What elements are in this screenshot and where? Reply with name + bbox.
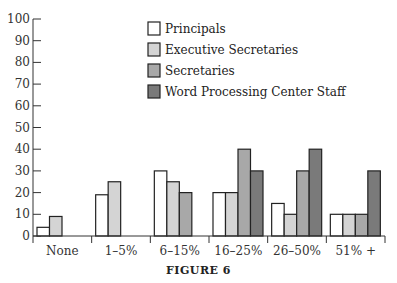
x-category-label: 1–5% bbox=[105, 244, 138, 258]
legend-swatch bbox=[148, 85, 160, 98]
legend-label: Secretaries bbox=[165, 64, 235, 78]
y-tick-label: 60 bbox=[15, 99, 30, 113]
bar bbox=[37, 227, 50, 236]
y-tick-label: 20 bbox=[15, 186, 30, 200]
bar bbox=[251, 171, 264, 236]
y-tick-label: 10 bbox=[15, 207, 30, 221]
bar bbox=[108, 182, 121, 236]
legend-swatch bbox=[148, 22, 160, 35]
y-tick-label: 70 bbox=[15, 77, 30, 91]
x-category-label: 51% + bbox=[335, 244, 376, 258]
bar bbox=[272, 203, 285, 236]
y-axis: 0102030405060708090100 bbox=[7, 12, 41, 243]
legend-label: Word Processing Center Staff bbox=[165, 85, 347, 99]
bar-group bbox=[154, 171, 192, 236]
legend: PrincipalsExecutive SecretariesSecretari… bbox=[148, 22, 347, 99]
bar bbox=[238, 149, 251, 236]
bar bbox=[330, 214, 343, 236]
bar-group bbox=[37, 216, 62, 236]
x-category-label: 26–50% bbox=[273, 244, 321, 258]
bar-group bbox=[213, 149, 263, 236]
legend-swatch bbox=[148, 64, 160, 77]
y-tick-label: 40 bbox=[15, 142, 30, 156]
bar bbox=[226, 193, 239, 236]
bar-group bbox=[96, 182, 121, 236]
bar bbox=[179, 193, 192, 236]
x-axis: None1–5%6–15%16–25%26–50%51% + bbox=[33, 236, 385, 258]
legend-swatch bbox=[148, 43, 160, 56]
x-category-label: 16–25% bbox=[214, 244, 262, 258]
bar bbox=[309, 149, 322, 236]
bar bbox=[284, 214, 297, 236]
bar bbox=[355, 214, 368, 236]
y-tick-label: 30 bbox=[15, 164, 30, 178]
y-tick-label: 80 bbox=[15, 55, 30, 69]
bar bbox=[96, 195, 109, 236]
y-tick-label: 100 bbox=[7, 12, 30, 26]
bar bbox=[368, 171, 381, 236]
figure-caption: FIGURE 6 bbox=[0, 264, 397, 277]
legend-label: Executive Secretaries bbox=[165, 43, 298, 57]
legend-label: Principals bbox=[165, 22, 226, 36]
bar bbox=[167, 182, 180, 236]
bar-group bbox=[272, 149, 322, 236]
bar-group bbox=[330, 171, 380, 236]
y-tick-label: 0 bbox=[22, 229, 30, 243]
y-tick-label: 90 bbox=[15, 34, 30, 48]
bar-chart: 0102030405060708090100 None1–5%6–15%16–2… bbox=[0, 0, 397, 262]
bar bbox=[343, 214, 356, 236]
x-category-label: 6–15% bbox=[160, 244, 200, 258]
x-category-label: None bbox=[46, 244, 79, 258]
bar bbox=[154, 171, 167, 236]
bar bbox=[50, 216, 63, 236]
bar bbox=[297, 171, 310, 236]
bar bbox=[213, 193, 226, 236]
y-tick-label: 50 bbox=[15, 121, 30, 135]
bar-groups bbox=[37, 149, 380, 236]
